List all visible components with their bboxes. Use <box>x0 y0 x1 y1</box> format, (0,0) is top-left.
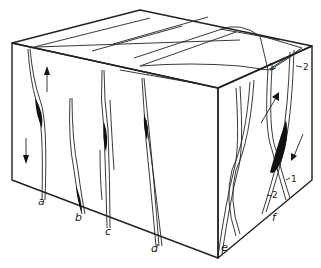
vein-label-b: b <box>75 212 82 223</box>
arrow-up-icon <box>44 66 50 92</box>
shear-arrows <box>23 66 303 164</box>
vein-d <box>142 78 162 246</box>
vein-e <box>218 80 254 256</box>
vein-label-c: c <box>105 226 111 237</box>
set-label-bottom-2: 2 <box>272 191 278 200</box>
vein-label-d: d <box>151 243 158 254</box>
block-diagram-svg <box>0 0 321 268</box>
arrow-up-right-icon <box>261 92 279 123</box>
vein-b <box>70 98 86 214</box>
vein-c <box>100 70 114 228</box>
arrow-down-icon <box>23 138 29 164</box>
set-label-top-1: 1 <box>269 63 275 72</box>
vein-label-e: e <box>221 242 228 253</box>
block-outline <box>12 10 312 258</box>
vein-label-a: a <box>38 196 45 207</box>
vein-a <box>28 49 46 200</box>
block-diagram: a b c d e f 1 2 2 1 <box>0 0 321 268</box>
vein-label-f: f <box>272 212 276 223</box>
set-label-bottom-1: 1 <box>291 175 297 184</box>
arrow-down-left-icon <box>291 134 303 161</box>
set-label-top-2: 2 <box>303 63 309 72</box>
vein-f <box>262 50 294 214</box>
